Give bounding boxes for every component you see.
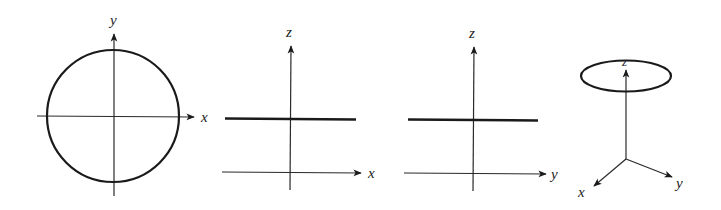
x-axis xyxy=(37,116,194,117)
y-axis xyxy=(626,159,672,177)
panel-3d-view: z x y xyxy=(577,54,683,200)
diagram-canvas: x y x z y z z x y xyxy=(0,0,721,210)
z-axis-label: z xyxy=(621,54,627,69)
y-axis xyxy=(404,173,546,174)
circle-edge-line xyxy=(225,119,356,120)
panel-xz-view: x z xyxy=(222,24,375,190)
x-axis xyxy=(222,172,361,173)
z-axis-label: z xyxy=(285,24,292,40)
panel-yz-view: y z xyxy=(404,25,558,191)
x-axis-label: x xyxy=(367,165,375,181)
circle-edge-line xyxy=(408,120,538,121)
x-axis-label: x xyxy=(577,184,585,200)
z-axis-label: z xyxy=(468,25,475,41)
y-axis-label: y xyxy=(549,166,558,182)
y-axis-label: y xyxy=(674,175,683,191)
panel-xy-view: x y xyxy=(37,12,208,196)
x-axis-label: x xyxy=(200,109,208,125)
x-axis xyxy=(594,159,626,186)
y-axis-label: y xyxy=(108,12,117,28)
